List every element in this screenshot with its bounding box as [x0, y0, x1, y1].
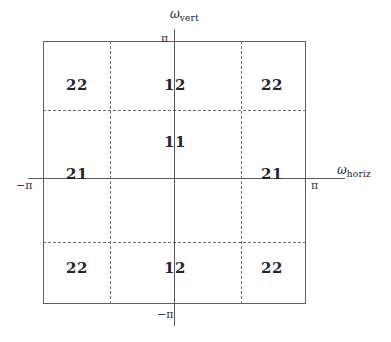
origin-cross-vertical	[174, 158, 175, 198]
subband-label-top-center: 12	[153, 78, 197, 93]
subband-label-bottom-center: 12	[153, 261, 197, 276]
omega-subscript-horizontal: horiz	[347, 169, 371, 179]
grid-line-vertical-right	[241, 41, 242, 304]
omega-symbol-vertical: ω	[170, 7, 180, 21]
subband-label-top-left: 22	[55, 78, 99, 93]
tick-label-horizontal-negative-pi: −π	[16, 180, 32, 191]
horizontal-axis-label: ωhoriz	[337, 164, 371, 179]
tick-label-vertical-negative-pi: −π	[157, 309, 173, 320]
subband-label-middle-center: 11	[153, 135, 197, 150]
origin-cross-horizontal	[155, 178, 195, 179]
subband-label-bottom-right: 22	[250, 261, 294, 276]
grid-line-vertical-left	[110, 41, 111, 304]
subband-label-bottom-left: 22	[55, 261, 99, 276]
tick-label-horizontal-positive-pi: π	[311, 180, 318, 191]
subband-label-middle-right: 21	[250, 167, 294, 182]
omega-symbol-horizontal: ω	[337, 163, 347, 177]
subband-label-middle-left: 21	[55, 167, 99, 182]
omega-subscript-vertical: vert	[180, 13, 199, 23]
subband-label-top-right: 22	[250, 78, 294, 93]
tick-label-vertical-positive-pi: π	[161, 33, 168, 44]
frequency-plane-diagram: 22 12 22 21 11 21 22 12 22 ωvert ωhoriz …	[0, 0, 391, 342]
vertical-axis-label: ωvert	[170, 8, 199, 23]
